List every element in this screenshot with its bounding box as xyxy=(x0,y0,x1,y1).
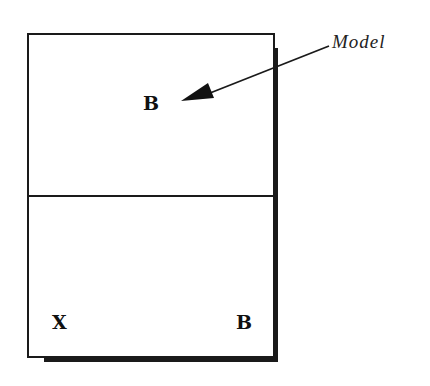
bottom-right-letter: B xyxy=(236,313,252,332)
model-label: Model xyxy=(332,32,386,51)
diagram: Model B X B xyxy=(0,0,430,386)
top-region-letter: B xyxy=(143,94,159,113)
bottom-left-letter: X xyxy=(52,313,67,332)
